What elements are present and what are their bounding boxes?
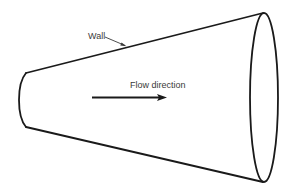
flow-direction-label: Flow direction [130, 81, 186, 90]
top-wall-line [26, 13, 263, 73]
inlet-end-arc [19, 73, 26, 127]
bottom-wall-line [26, 127, 263, 182]
conical-duct-diagram [0, 0, 290, 195]
wall-leader-arrowhead-icon [120, 43, 126, 47]
outlet-end-ellipse [250, 13, 278, 182]
wall-label: Wall [88, 32, 105, 41]
